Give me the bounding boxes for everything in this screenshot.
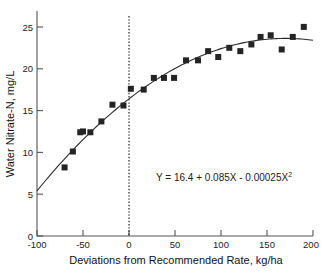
axes-frame xyxy=(37,11,313,236)
data-point xyxy=(290,34,296,40)
data-point xyxy=(151,75,157,81)
data-point-group xyxy=(62,24,307,171)
data-point xyxy=(301,24,307,30)
data-point xyxy=(141,87,147,93)
y-tick-label: 10 xyxy=(22,147,33,158)
data-point xyxy=(195,57,201,63)
data-point xyxy=(226,45,232,51)
equation-body: Y = 16.4 + 0.085X - 0.00025X xyxy=(156,172,288,183)
data-point xyxy=(215,54,221,60)
nitrate-response-chart: 25 20 15 10 5 0 -100 -50 0 50 100 150 20… xyxy=(0,0,322,273)
y-tick-label: 25 xyxy=(22,22,33,33)
x-axis-title: Deviations from Recommended Rate, kg/ha xyxy=(69,254,283,266)
data-point xyxy=(279,46,285,52)
y-axis-ticks xyxy=(37,27,43,236)
y-axis-tick-labels: 25 20 15 10 5 0 xyxy=(22,22,33,242)
axis-lines xyxy=(37,11,313,236)
figure-container: 25 20 15 10 5 0 -100 -50 0 50 100 150 20… xyxy=(0,0,322,273)
x-tick-label: -50 xyxy=(76,239,90,250)
x-axis-ticks xyxy=(37,230,313,236)
data-point xyxy=(161,75,167,81)
y-axis-title: Water Nitrate-N, mg/L xyxy=(4,71,16,178)
regression-curve xyxy=(37,38,313,190)
data-point xyxy=(205,48,211,54)
data-point xyxy=(171,75,177,81)
equation-exponent: 2 xyxy=(288,171,292,178)
y-tick-label: 20 xyxy=(22,63,33,74)
data-point xyxy=(268,32,274,38)
equation-text: Y = 16.4 + 0.085X - 0.00025X2 xyxy=(156,171,292,183)
data-point xyxy=(248,41,254,47)
data-point xyxy=(237,48,243,54)
data-point xyxy=(109,102,115,108)
x-tick-label: 150 xyxy=(259,239,275,250)
regression-equation: Y = 16.4 + 0.085X - 0.00025X2 xyxy=(156,171,292,183)
data-point xyxy=(70,149,76,155)
data-point xyxy=(258,34,264,40)
x-tick-label: 100 xyxy=(213,239,229,250)
data-point xyxy=(128,86,134,92)
x-tick-label: 200 xyxy=(303,239,319,250)
data-point xyxy=(183,57,189,63)
y-tick-label: 15 xyxy=(22,105,33,116)
x-axis-tick-labels: -100 -50 0 50 100 150 200 xyxy=(27,239,318,250)
x-tick-label: -100 xyxy=(27,239,46,250)
data-point xyxy=(80,128,86,134)
data-point xyxy=(62,164,68,170)
x-tick-label: 50 xyxy=(170,239,181,250)
data-point xyxy=(120,103,126,109)
y-tick-label: 5 xyxy=(28,189,33,200)
x-tick-label: 0 xyxy=(126,239,131,250)
data-point xyxy=(98,118,104,124)
data-point xyxy=(87,129,93,135)
fit-curve-group xyxy=(37,38,313,190)
